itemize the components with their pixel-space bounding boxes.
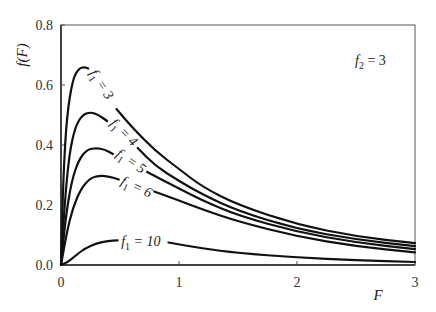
x-axis-title: F xyxy=(372,287,383,303)
f-distribution-chart: 01230.00.20.40.60.8 f1 = 3f1 = 4f1 = 5f1… xyxy=(0,0,436,312)
y-axis-title: f(F) xyxy=(14,43,31,66)
x-tick-label: 1 xyxy=(176,275,183,290)
curve-label-f1-5: f1 = 5 xyxy=(112,146,149,179)
x-tick-label: 0 xyxy=(58,275,65,290)
y-tick-label: 0.8 xyxy=(36,18,54,33)
curve-label-f1-6: f1 = 6 xyxy=(117,173,154,203)
y-tick-label: 0.0 xyxy=(36,258,54,273)
curve-f1-3 xyxy=(61,67,88,265)
y-tick-label: 0.4 xyxy=(36,138,54,153)
curves xyxy=(61,67,415,265)
y-tick-label: 0.2 xyxy=(36,198,54,213)
f2-annotation: f2 = 3 xyxy=(355,53,386,71)
curve-f1-10 xyxy=(61,240,118,265)
y-tick-label: 0.6 xyxy=(36,78,54,93)
x-tick-label: 3 xyxy=(412,275,419,290)
curve-label-f1-10: f1 = 10 xyxy=(121,234,160,252)
axis-ticks: 01230.00.20.40.60.8 xyxy=(36,18,419,290)
curve-label-f1-3: f1 = 3 xyxy=(84,67,116,104)
curve-f1-6 xyxy=(154,192,415,253)
x-tick-label: 2 xyxy=(294,275,301,290)
